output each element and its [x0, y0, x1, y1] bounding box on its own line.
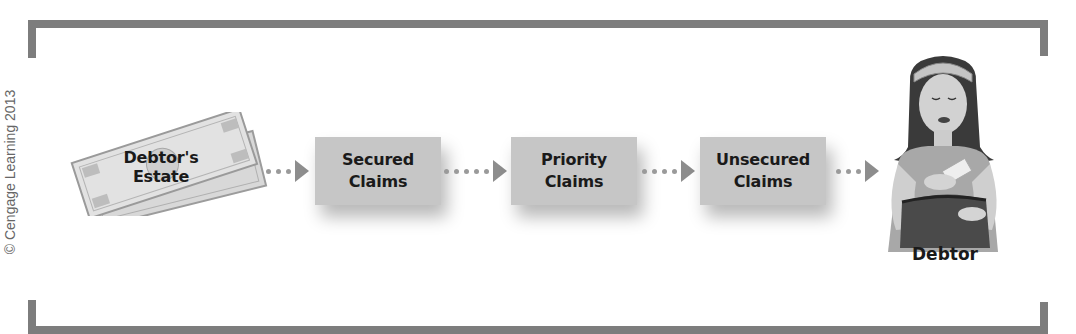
priority-claims-box: Priority Claims — [511, 137, 637, 205]
debtor-illustration — [868, 52, 1018, 252]
copyright-notice: © Cengage Learning 2013 — [2, 82, 18, 262]
frame-top-border — [28, 20, 1048, 28]
frame-bottom-right-corner — [1040, 302, 1048, 334]
frame-top-left-corner — [28, 20, 36, 58]
flow-arrow-3 — [642, 160, 695, 182]
unsecured-claims-line1: Unsecured — [716, 149, 810, 171]
priority-claims-line2: Claims — [541, 171, 607, 193]
debtors-estate-line2: Estate — [106, 167, 216, 186]
unsecured-claims-box: Unsecured Claims — [700, 137, 826, 205]
arrow-right-icon — [295, 160, 309, 182]
arrow-right-icon — [493, 160, 507, 182]
woman-with-purse-icon — [868, 52, 1018, 252]
debtor-label: Debtor — [900, 244, 990, 264]
arrow-right-icon — [681, 160, 695, 182]
priority-claims-line1: Priority — [541, 149, 607, 171]
frame-bottom-left-corner — [28, 300, 36, 334]
flow-arrow-1 — [266, 160, 309, 182]
flow-arrow-2 — [444, 160, 507, 182]
debtors-estate-line1: Debtor's — [106, 148, 216, 167]
unsecured-claims-line2: Claims — [716, 171, 810, 193]
secured-claims-box: Secured Claims — [315, 137, 441, 205]
secured-claims-line2: Claims — [342, 171, 414, 193]
frame-top-right-corner — [1040, 20, 1048, 56]
secured-claims-line1: Secured — [342, 149, 414, 171]
frame-bottom-border — [28, 326, 1048, 334]
debtors-estate-label: Debtor's Estate — [106, 148, 216, 186]
debtors-estate-node: Debtor's Estate — [66, 112, 276, 216]
